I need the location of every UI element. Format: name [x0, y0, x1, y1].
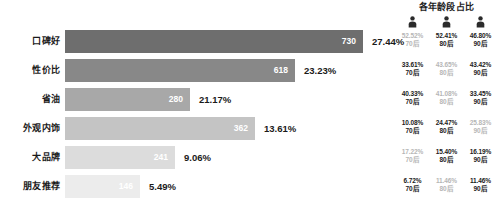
bar-value-2: 280: [169, 88, 183, 111]
age-group-label: 80后: [430, 69, 463, 77]
age-cell: 11.46%90后: [464, 172, 497, 201]
chart-row: 外观内饰36213.61%10.08%70后24.47%80后25.83%90后: [0, 114, 501, 143]
bar-5[interactable]: 146: [65, 175, 140, 198]
age-percent: 43.65%: [430, 61, 463, 69]
age-cells: 52.52%70后52.41%80后46.80%90后: [392, 27, 501, 56]
age-percent: 11.46%: [430, 177, 463, 185]
age-cell: 16.19%90后: [464, 143, 497, 172]
horizontal-bar-chart: 各年龄段占比 口碑好73027.44%52.52%70后52.41%80后46.…: [0, 0, 501, 209]
age-cell: 41.08%80后: [430, 85, 463, 114]
age-cell: 46.80%90后: [464, 27, 497, 56]
chart-row: 大品牌2419.06%17.22%70后15.40%80后16.19%90后: [0, 143, 501, 172]
bar-track: 241: [65, 146, 365, 169]
age-percent: 40.33%: [396, 90, 429, 98]
age-cell: 25.83%90后: [464, 114, 497, 143]
age-group-label: 80后: [430, 156, 463, 164]
age-percent: 10.08%: [396, 119, 429, 127]
age-percent: 52.52%: [396, 32, 429, 40]
age-group-label: 90后: [464, 40, 497, 48]
age-cells: 6.72%70后11.46%80后11.46%90后: [392, 172, 501, 201]
age-cell: 40.33%70后: [396, 85, 429, 114]
age-cells: 33.61%70后43.65%80后43.42%90后: [392, 56, 501, 85]
bar-3[interactable]: 362: [65, 117, 255, 140]
age-group-label: 80后: [430, 127, 463, 135]
age-percent: 41.08%: [430, 90, 463, 98]
age-cell: 17.22%70后: [396, 143, 429, 172]
age-cells: 40.33%70后41.08%80后33.45%90后: [392, 85, 501, 114]
bar-0[interactable]: 730: [65, 30, 363, 53]
bar-value-5: 146: [119, 175, 133, 198]
age-percent: 16.19%: [464, 148, 497, 156]
row-label-1: 性价比: [0, 56, 60, 85]
age-group-label: 70后: [396, 127, 429, 135]
bar-2[interactable]: 280: [65, 88, 190, 111]
bar-4[interactable]: 241: [65, 146, 175, 169]
chart-row: 省油28021.17%40.33%70后41.08%80后33.45%90后: [0, 85, 501, 114]
age-panel-header: 各年龄段占比: [392, 0, 501, 28]
age-percent: 52.41%: [430, 32, 463, 40]
age-percent: 33.61%: [396, 61, 429, 69]
bar-value-1: 618: [274, 59, 288, 82]
bar-track: 362: [65, 117, 365, 140]
age-cell: 43.65%80后: [430, 56, 463, 85]
age-cell: 43.42%90后: [464, 56, 497, 85]
row-percent-3: 13.61%: [264, 114, 296, 143]
bar-value-0: 730: [342, 30, 356, 53]
age-cells: 10.08%70后24.47%80后25.83%90后: [392, 114, 501, 143]
row-percent-5: 5.49%: [149, 172, 176, 201]
age-group-label: 70后: [396, 156, 429, 164]
row-percent-2: 21.17%: [199, 85, 231, 114]
age-percent: 11.46%: [464, 177, 497, 185]
bar-value-4: 241: [154, 146, 168, 169]
chart-row: 性价比61823.23%33.61%70后43.65%80后43.42%90后: [0, 56, 501, 85]
age-cell: 33.45%90后: [464, 85, 497, 114]
age-cell: 15.40%80后: [430, 143, 463, 172]
row-percent-1: 23.23%: [304, 56, 336, 85]
age-group-label: 90后: [464, 98, 497, 106]
age-percent: 6.72%: [396, 177, 429, 185]
age-group-label: 70后: [396, 40, 429, 48]
bar-1[interactable]: 618: [65, 59, 295, 82]
age-percent: 25.83%: [464, 119, 497, 127]
age-cell: 52.52%70后: [396, 27, 429, 56]
age-group-label: 90后: [464, 156, 497, 164]
age-icon-row: [392, 13, 501, 28]
chart-row: 口碑好73027.44%52.52%70后52.41%80后46.80%90后: [0, 27, 501, 56]
age-group-label: 90后: [464, 127, 497, 135]
row-label-2: 省油: [0, 85, 60, 114]
age-percent: 17.22%: [396, 148, 429, 156]
age-group-label: 70后: [396, 185, 429, 193]
age-cell: 11.46%80后: [430, 172, 463, 201]
age-group-label: 80后: [430, 98, 463, 106]
bar-value-3: 362: [234, 117, 248, 140]
age-percent: 46.80%: [464, 32, 497, 40]
age-group-label: 90后: [464, 69, 497, 77]
bar-track: 730: [65, 30, 365, 53]
age-group-label: 80后: [430, 40, 463, 48]
age-percent: 33.45%: [464, 90, 497, 98]
age-cell: 6.72%70后: [396, 172, 429, 201]
row-label-5: 朋友推荐: [0, 172, 60, 201]
age-cell: 10.08%70后: [396, 114, 429, 143]
age-group-label: 80后: [430, 185, 463, 193]
age-cell: 52.41%80后: [430, 27, 463, 56]
age-group-label: 90后: [464, 185, 497, 193]
age-percent: 24.47%: [430, 119, 463, 127]
row-label-3: 外观内饰: [0, 114, 60, 143]
age-percent: 43.42%: [464, 61, 497, 69]
age-group-label: 70后: [396, 98, 429, 106]
age-panel-title: 各年龄段占比: [392, 0, 501, 13]
age-cells: 17.22%70后15.40%80后16.19%90后: [392, 143, 501, 172]
chart-row: 朋友推荐1465.49%6.72%70后11.46%80后11.46%90后: [0, 172, 501, 201]
row-label-0: 口碑好: [0, 27, 60, 56]
row-label-4: 大品牌: [0, 143, 60, 172]
age-cell: 33.61%70后: [396, 56, 429, 85]
age-group-label: 70后: [396, 69, 429, 77]
age-percent: 15.40%: [430, 148, 463, 156]
age-cell: 24.47%80后: [430, 114, 463, 143]
bar-track: 146: [65, 175, 365, 198]
row-percent-4: 9.06%: [184, 143, 211, 172]
